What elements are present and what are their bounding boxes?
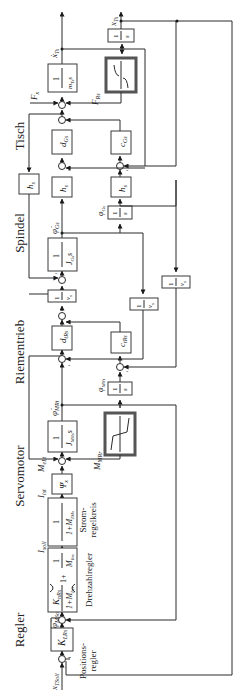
block-h-s-feedback: hs: [19, 174, 39, 194]
sum-junction-belt-speed: -: [59, 356, 72, 370]
signal-phi-dot-mr: φ̇MRt: [49, 400, 60, 416]
section-labels: Regler Servomotor Riementrieb Spindel Ti…: [12, 121, 27, 647]
block-c-g: cGs: [111, 131, 131, 154]
positionsregler-label-1: Positions-: [78, 643, 88, 679]
block-psi: Ψx: [52, 474, 72, 494]
block-d-g: dGs: [52, 130, 72, 154]
block-c-r: ctRs: [111, 332, 131, 353]
stromregelkreis-label-1: Strom-: [78, 507, 88, 532]
section-label-riementrieb: Riementrieb: [12, 320, 27, 384]
block-j-g: 1 JGss: [48, 238, 77, 271]
block-m-t: 1 mTss: [48, 64, 77, 92]
sum-junction-belt-force: [59, 313, 66, 320]
signal-i-ist: Iist: [36, 489, 47, 499]
block-j-mr: 1 JMRss: [48, 421, 77, 452]
signal-f-x: Fx: [29, 92, 40, 102]
block-k-lr: KLRs: [51, 628, 73, 651]
signal-i-soll: Isoll: [36, 541, 47, 554]
svg-text:1: 1: [52, 77, 61, 81]
section-label-servomotor: Servomotor: [12, 445, 27, 507]
svg-text:1: 1: [52, 436, 61, 440]
svg-text:s: s: [121, 388, 129, 391]
svg-text:-: -: [68, 166, 71, 174]
stromregelkreis-label-2: regelkreis: [88, 502, 98, 538]
section-label-tisch: Tisch: [12, 121, 27, 150]
signal-x-dot-t: ẋTs: [49, 48, 60, 59]
svg-text:1: 1: [111, 387, 119, 391]
block-drehzahlregler-pi: KnRs 1+MInx 1+ 1 MInx: [48, 548, 77, 612]
sum-junction-table-total: [59, 102, 66, 109]
block-friction-table: [106, 58, 136, 92]
block-int-t: 1 s: [108, 29, 134, 42]
sum-junction-speed: -: [59, 614, 72, 624]
block-int-g: 1 s: [108, 206, 132, 219]
section-label-spindel: Spindel: [12, 213, 27, 253]
svg-text:1: 1: [53, 296, 61, 300]
minus-sign: -: [68, 652, 71, 662]
svg-text:1: 1: [167, 282, 175, 286]
block-friction-motor: [105, 413, 135, 455]
signal-phi-dot-g: φ̇Gs: [49, 222, 60, 234]
block-h-s-2: hs: [111, 177, 131, 197]
sum-junction-position: -: [59, 652, 72, 663]
svg-text:-: -: [68, 361, 71, 369]
block-int-mr: 1 s: [108, 382, 132, 395]
svg-text:1: 1: [52, 254, 61, 258]
svg-text:1+: 1+: [59, 574, 68, 583]
signal-phi-g: φGs: [96, 206, 106, 216]
signal-x-t: xTs: [108, 16, 119, 27]
block-diagram: Regler Servomotor Riementrieb Spindel Ti…: [0, 0, 244, 699]
signal-m-mr: MMRr: [92, 451, 103, 471]
svg-text:1: 1: [52, 559, 61, 563]
block-nu-2: 1 νs: [162, 276, 190, 288]
svg-text:-: -: [126, 367, 129, 375]
sum-junction-belt-pos: -: [117, 364, 130, 376]
svg-text:s: s: [121, 212, 129, 215]
sum-junction-motor-torque: [59, 458, 66, 465]
svg-text:1: 1: [135, 304, 143, 308]
block-nu-1: 1 νs: [130, 298, 158, 310]
signal-phi-mr: φMRt: [96, 378, 106, 392]
svg-text:1: 1: [112, 34, 120, 38]
svg-text:-: -: [68, 614, 71, 624]
signal-x-tsoll: xTSoll: [49, 673, 60, 691]
svg-text:s: s: [123, 35, 131, 38]
block-h-s-1: hs: [52, 177, 72, 197]
section-label-regler: Regler: [12, 612, 27, 647]
block-nu-3: 1 νs: [48, 290, 76, 302]
svg-text:-: -: [126, 166, 129, 174]
signal-f-r: FRs: [90, 93, 101, 106]
svg-text:1: 1: [52, 520, 61, 524]
svg-text:1: 1: [111, 211, 119, 215]
block-d-r: dtRs: [52, 326, 72, 350]
sum-junction-table-force: [59, 117, 66, 124]
positionsregler-label-2: regler: [88, 651, 98, 672]
block-stromregelkreis: 1 1+MIMx: [48, 498, 77, 546]
drehzahlregler-label: Drehzahlregler: [84, 553, 94, 607]
